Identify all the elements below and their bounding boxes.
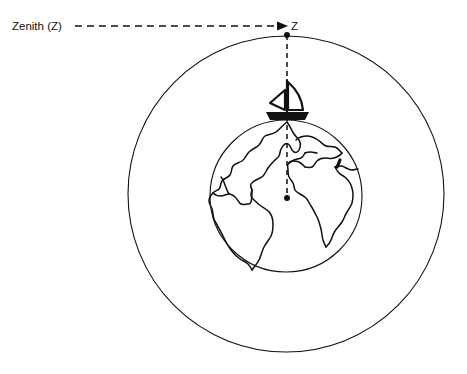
- earth-center-dot: [284, 195, 290, 201]
- zenith-point-dot: [284, 32, 290, 38]
- south-america-coast-east: [251, 190, 273, 270]
- leader-arrowhead-icon: [277, 22, 288, 31]
- diagram-canvas: Zenith (Z) Z: [0, 0, 467, 374]
- zenith-diagram: Zenith (Z) Z: [0, 0, 467, 374]
- sailboat-jib: [270, 90, 285, 110]
- africa-west-coast: [288, 161, 326, 247]
- africa-east-coast: [326, 167, 353, 247]
- iberia-coast: [288, 153, 305, 164]
- continents-group: [209, 122, 358, 270]
- south-america-coast-west: [218, 227, 252, 270]
- sailboat-icon: [266, 80, 309, 120]
- sailboat-mainsail: [288, 82, 303, 110]
- zenith-label: Zenith (Z): [12, 20, 62, 32]
- mediterranean-sea-line: [305, 152, 317, 153]
- central-america-coast: [213, 190, 252, 204]
- zenith-leader-group: [75, 22, 288, 31]
- central-america-inlet: [221, 177, 229, 194]
- zenith-point-label: Z: [291, 20, 298, 32]
- sailboat-hull: [266, 112, 309, 120]
